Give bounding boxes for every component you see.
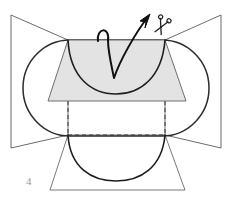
- lower-arc: [68, 135, 165, 181]
- figure-number-label: 4: [26, 176, 32, 187]
- geometric-diagram: [0, 0, 232, 205]
- figure-container: 4: [0, 0, 232, 205]
- scissors-icon: [152, 14, 172, 36]
